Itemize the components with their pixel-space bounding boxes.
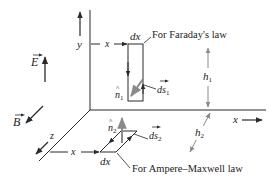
faraday-loop: x dx For Faraday's law n1 ^ ds1 [91, 29, 227, 102]
ds1-label: ds1 [157, 84, 170, 97]
caption-leader-line [117, 153, 130, 168]
loop-direction-arrow-icon [109, 135, 117, 143]
normal-vector-n1-icon [131, 79, 143, 96]
ampere-loop-parallelogram [100, 131, 137, 152]
ampere-maxwell-loop: x n2 ^ ds2 dx For Ampere–Maxwell law [50, 117, 243, 174]
e-field-label: E [30, 55, 39, 69]
b-field-arrow-icon [26, 106, 43, 123]
z-arrow-icon [36, 142, 48, 154]
height-h1: h1 [201, 48, 217, 107]
faraday-ampere-diagram: y x z E B x dx For Faraday's law n1 [0, 0, 277, 187]
x-distance-label-bottom: x [70, 146, 76, 157]
x-axis-indicator: x [232, 113, 262, 125]
ampere-width-label: dx [100, 155, 111, 167]
magnetic-field-indicator: B [13, 106, 43, 129]
z-axis-label: z [49, 130, 54, 141]
y-axis-label: y [76, 38, 82, 50]
b-field-label: B [13, 115, 21, 129]
caption-leader-line [144, 37, 151, 43]
faraday-loop-rectangle [128, 44, 143, 101]
y-axis-indicator: y [76, 12, 82, 50]
ampere-caption: For Ampere–Maxwell law [132, 163, 243, 174]
faraday-width-label: dx [130, 30, 141, 42]
ds1-leader-line [144, 85, 156, 89]
electric-field-indicator: E [30, 55, 45, 82]
diagonal-z-axis-line [39, 110, 90, 161]
loop-direction-arrow-icon [124, 136, 132, 144]
x-axis-label-right: x [232, 113, 238, 125]
ds2-label: ds2 [149, 130, 162, 143]
faraday-caption: For Faraday's law [152, 29, 227, 40]
ds2-leader-line [134, 134, 148, 139]
x-distance-label-top: x [104, 38, 110, 49]
height-h2: h2 [190, 113, 210, 152]
z-axis-indicator: z [36, 130, 54, 154]
